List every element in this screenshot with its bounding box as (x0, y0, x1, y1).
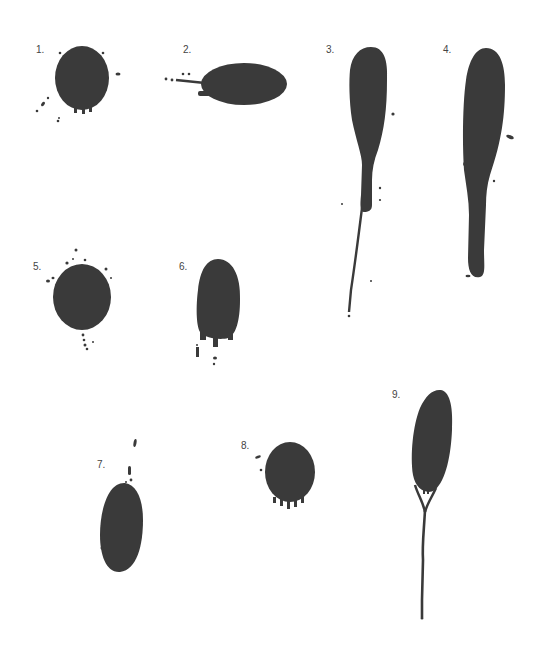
drop-3-shape (341, 47, 395, 317)
drop-9-shape (412, 390, 452, 620)
bloodstain-figure (0, 0, 538, 663)
drop-6-shape (196, 259, 240, 365)
drop-2-shape (165, 63, 287, 105)
drop-4-shape (462, 48, 514, 277)
drop-1-shape (36, 46, 121, 122)
drop-8-shape (255, 442, 315, 509)
drop-7-shape (100, 439, 143, 572)
drop-5-shape (46, 249, 112, 351)
